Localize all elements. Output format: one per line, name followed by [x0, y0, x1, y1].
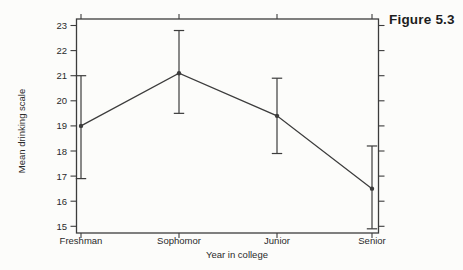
x-category-label: Sophomor	[157, 235, 201, 246]
figure-5-3: Figure 5.3 232221201918171615FreshmanSop…	[0, 0, 463, 270]
x-category-label: Senior	[358, 235, 385, 246]
x-axis-title: Year in college	[206, 249, 268, 260]
y-tick-label: 16	[56, 196, 67, 207]
data-point-freshman	[79, 124, 83, 128]
x-category-label: Junior	[264, 235, 290, 246]
x-category-label: Freshman	[60, 235, 103, 246]
series-line	[81, 73, 372, 188]
line-chart-svg: 232221201918171615FreshmanSophomorJunior…	[0, 0, 463, 270]
data-point-junior	[275, 114, 279, 118]
y-axis-title: Mean drinking scale	[16, 89, 27, 174]
y-tick-label: 17	[56, 171, 67, 182]
y-tick-label: 20	[56, 95, 67, 106]
y-tick-label: 21	[56, 70, 67, 81]
data-point-senior	[370, 186, 374, 190]
plot-frame	[77, 19, 379, 233]
y-tick-label: 18	[56, 146, 67, 157]
y-tick-label: 19	[56, 120, 67, 131]
y-tick-label: 23	[56, 20, 67, 31]
y-tick-label: 22	[56, 45, 67, 56]
data-point-sophomor	[177, 71, 181, 75]
y-tick-label: 15	[56, 221, 67, 232]
